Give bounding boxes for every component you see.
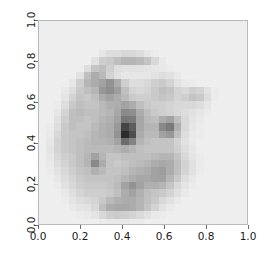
x-tick-mark — [38, 225, 39, 229]
x-tick-mark — [248, 225, 249, 229]
x-tick-label: 0.4 — [114, 231, 131, 242]
y-tick-label: 1.0 — [26, 9, 37, 31]
y-tick-label: 0.0 — [26, 214, 37, 236]
x-tick-mark — [122, 225, 123, 229]
figure-canvas: 0.00.20.40.60.81.00.00.20.40.60.81.0 — [0, 0, 265, 259]
x-tick-label: 0.2 — [72, 231, 89, 242]
x-tick-label: 1.0 — [240, 231, 257, 242]
y-tick-label: 0.2 — [26, 173, 37, 195]
x-tick-mark — [206, 225, 207, 229]
y-tick-label: 0.8 — [26, 50, 37, 72]
plot-axes-area — [38, 20, 248, 225]
x-tick-mark — [164, 225, 165, 229]
x-tick-mark — [80, 225, 81, 229]
x-tick-label: 0.8 — [198, 231, 215, 242]
heatmap-image — [39, 21, 248, 225]
y-tick-label: 0.6 — [26, 91, 37, 113]
x-tick-label: 0.6 — [156, 231, 173, 242]
y-tick-label: 0.4 — [26, 132, 37, 154]
